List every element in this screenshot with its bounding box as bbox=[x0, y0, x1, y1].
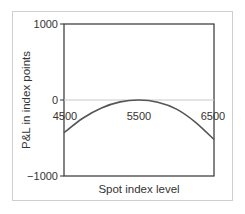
x-tick-6500: 6500 bbox=[201, 110, 225, 122]
y-axis-label: P&L in index points bbox=[20, 51, 32, 149]
x-axis-label: Spot index level bbox=[98, 183, 179, 195]
y-tick-neg1000: −1000 bbox=[27, 170, 58, 182]
pnl-chart: 1000 0 −1000 4500 5500 6500 Spot index l… bbox=[0, 0, 245, 214]
y-tick-1000: 1000 bbox=[34, 18, 58, 30]
x-tick-4500: 4500 bbox=[53, 110, 77, 122]
y-tick-0: 0 bbox=[52, 94, 58, 106]
x-tick-5500: 5500 bbox=[127, 110, 151, 122]
